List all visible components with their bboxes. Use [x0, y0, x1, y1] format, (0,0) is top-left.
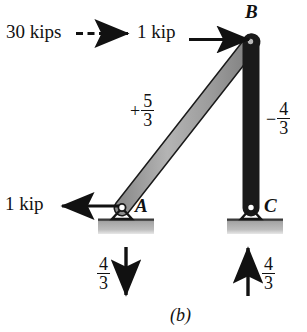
reaction-c-numerator: 4 [262, 255, 275, 273]
member-force-bc-numerator: 4 [277, 100, 290, 118]
load-label-1kip-left: 1 kip [5, 194, 44, 213]
member-force-bc-sign: − [266, 110, 276, 128]
member-force-ab-sign: + [130, 102, 140, 120]
ground-base-c [227, 219, 283, 234]
member-force-ab-fraction: 5 3 [141, 92, 154, 129]
joint-label-c: C [264, 196, 277, 215]
member-force-ab: + 5 3 [130, 92, 154, 129]
reaction-label-a: 4 3 [97, 255, 110, 292]
member-force-ab-numerator: 5 [141, 92, 154, 110]
member-force-bc: − 4 3 [266, 100, 290, 137]
joint-label-b: B [245, 2, 258, 21]
member-force-ab-denominator: 3 [141, 110, 154, 129]
member-force-bc-fraction: 4 3 [277, 100, 290, 137]
truss-free-body-diagram [0, 0, 307, 332]
reaction-c-denominator: 3 [262, 273, 275, 292]
pin-joint-a [118, 204, 125, 211]
ground-base-a [98, 219, 154, 234]
reaction-a-fraction: 4 3 [97, 255, 110, 292]
pin-joint-c [247, 204, 254, 211]
joint-label-a: A [135, 196, 148, 215]
reaction-a-denominator: 3 [97, 273, 110, 292]
figure-caption: (b) [170, 306, 191, 324]
reaction-a-numerator: 4 [97, 255, 110, 273]
reaction-label-c: 4 3 [262, 255, 275, 292]
load-label-30kips: 30 kips [6, 22, 61, 41]
member-force-bc-denominator: 3 [277, 118, 290, 137]
load-label-1kip-top: 1 kip [137, 22, 176, 41]
reaction-c-fraction: 4 3 [262, 255, 275, 292]
